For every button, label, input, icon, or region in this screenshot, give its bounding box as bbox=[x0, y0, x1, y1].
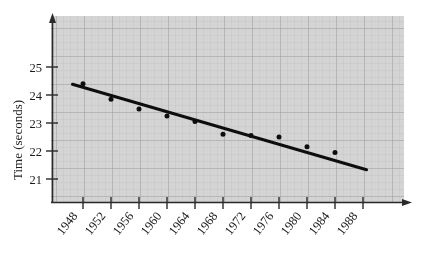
data-point bbox=[165, 114, 170, 119]
scatter-plot-canvas: 25 24 23 22 21 Time (seconds) 1948 1952 … bbox=[0, 0, 422, 264]
y-axis-title: Time (seconds) bbox=[10, 100, 25, 180]
data-point bbox=[221, 132, 226, 137]
grid-lines bbox=[51, 16, 404, 203]
data-point bbox=[81, 81, 86, 86]
data-point bbox=[193, 119, 198, 124]
y-tick-label: 24 bbox=[30, 89, 43, 103]
data-point bbox=[249, 133, 254, 138]
data-point bbox=[333, 150, 338, 155]
y-tick-label: 25 bbox=[30, 61, 43, 75]
plot-background-group bbox=[51, 16, 404, 203]
y-tick-label: 22 bbox=[30, 145, 43, 159]
chart-figure: 25 24 23 22 21 Time (seconds) 1948 1952 … bbox=[0, 0, 422, 264]
y-tick-label: 21 bbox=[30, 173, 43, 187]
data-point bbox=[277, 135, 282, 140]
data-point bbox=[137, 107, 142, 112]
y-tick-label: 23 bbox=[30, 117, 43, 131]
data-point bbox=[109, 97, 114, 102]
y-axis-title-group: Time (seconds) bbox=[10, 100, 25, 180]
data-point bbox=[305, 144, 310, 149]
